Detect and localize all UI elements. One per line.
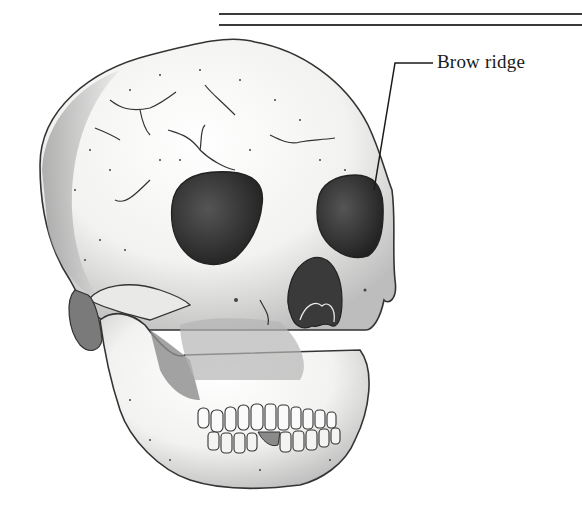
skull-illustration bbox=[0, 0, 582, 517]
brow-ridge-label: Brow ridge bbox=[437, 51, 525, 73]
